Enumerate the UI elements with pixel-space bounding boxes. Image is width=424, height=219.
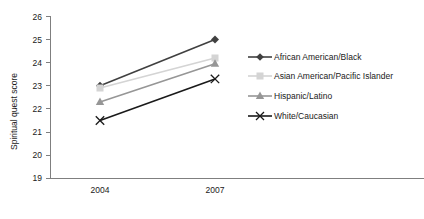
square-icon: [257, 73, 264, 80]
diamond-marker: [211, 36, 219, 44]
legend-label: White/Caucasian: [274, 111, 339, 121]
series-asian-american-pacific-islander: [97, 55, 219, 92]
x-marker: [96, 116, 104, 124]
y-tick-label: 24: [33, 58, 43, 68]
series-line: [100, 79, 215, 121]
legend-label: African American/Black: [274, 52, 362, 62]
y-tick-label: 19: [33, 173, 43, 183]
y-axis-ticks: 26 25 24 23 22 21 20 19: [33, 12, 51, 184]
legend-item-asian-american-pacific-islander: Asian American/Pacific Islander: [248, 71, 393, 81]
legend-item-african-american-black: African American/Black: [248, 52, 362, 62]
series-african-american-black: [96, 36, 219, 90]
square-marker: [97, 85, 104, 92]
x-tick-label: 2004: [91, 185, 110, 195]
y-axis-title: Spiritual quest score: [9, 73, 19, 150]
y-tick-label: 20: [33, 150, 43, 160]
chart-legend: African American/Black Asian American/Pa…: [248, 52, 393, 121]
diamond-icon: [256, 53, 264, 61]
chart-canvas: Spiritual quest score 26 25 24 23 22 21 …: [0, 0, 424, 219]
legend-item-white-caucasian: White/Caucasian: [248, 111, 339, 121]
legend-label: Asian American/Pacific Islander: [274, 71, 393, 81]
y-tick-label: 21: [33, 127, 43, 137]
legend-item-hispanic-latino: Hispanic/Latino: [248, 91, 332, 101]
x-tick-label: 2007: [206, 185, 225, 195]
x-axis-ticks: 2004 2007: [91, 185, 225, 195]
y-tick-label: 25: [33, 35, 43, 45]
y-tick-label: 22: [33, 104, 43, 114]
line-chart: Spiritual quest score 26 25 24 23 22 21 …: [0, 0, 424, 219]
y-tick-label: 26: [33, 12, 43, 22]
x-marker: [211, 75, 219, 83]
series-hispanic-latino: [96, 59, 219, 105]
legend-label: Hispanic/Latino: [274, 91, 332, 101]
y-tick-label: 23: [33, 81, 43, 91]
